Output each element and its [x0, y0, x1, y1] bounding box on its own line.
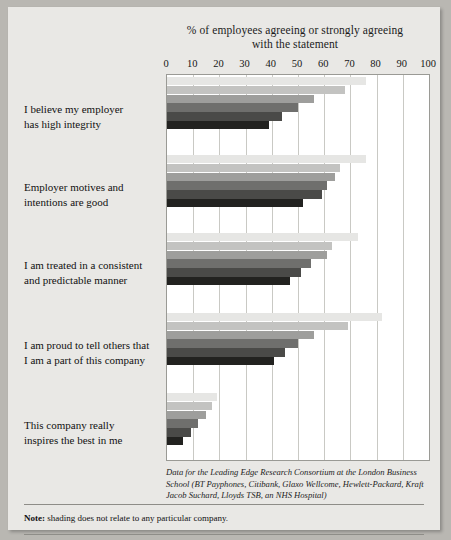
divider-bottom [24, 534, 424, 535]
bar-g5-s1 [167, 393, 217, 401]
chart-title: % of employees agreeing or strongly agre… [150, 23, 440, 51]
bar-g2-s1 [167, 155, 366, 163]
bar-group-2 [167, 155, 429, 208]
x-tick-0: 0 [163, 58, 168, 69]
bar-g3-s2 [167, 242, 332, 250]
bar-g2-s4 [167, 181, 327, 189]
bar-g5-s2 [167, 402, 212, 410]
bar-g1-s3 [167, 95, 314, 103]
bar-g3-s6 [167, 277, 290, 285]
bar-group-4 [167, 313, 429, 366]
bar-g1-s6 [167, 121, 269, 129]
bar-g5-s3 [167, 411, 206, 419]
x-tick-20: 20 [213, 58, 224, 69]
bar-g4-s4 [167, 339, 298, 347]
bar-g1-s4 [167, 103, 298, 111]
statement-5-line-2: inspires the best in me [24, 433, 156, 448]
x-tick-40: 40 [266, 58, 277, 69]
x-tick-100: 100 [420, 58, 436, 69]
bar-g2-s5 [167, 190, 322, 198]
x-tick-30: 30 [239, 58, 250, 69]
statement-3-line-1: I am treated in a consistent [24, 258, 156, 273]
bar-g2-s3 [167, 173, 335, 181]
divider-top [24, 504, 424, 505]
x-tick-70: 70 [344, 58, 355, 69]
x-tick-60: 60 [318, 58, 329, 69]
bar-g3-s4 [167, 259, 311, 267]
statement-1-line-2: has high integrity [24, 117, 156, 132]
plot-wrapper: 0102030405060708090100 [158, 58, 430, 463]
bar-g4-s1 [167, 313, 382, 321]
bar-group-1 [167, 77, 429, 130]
statement-label-2: Employer motives andintentions are good [24, 180, 156, 209]
bar-g3-s5 [167, 268, 301, 276]
bar-g4-s6 [167, 357, 274, 365]
statement-label-4: I am proud to tell others thatI am a par… [24, 338, 156, 367]
bar-g4-s5 [167, 348, 285, 356]
chart-title-line-1: % of employees agreeing or strongly agre… [150, 23, 440, 37]
statement-3-line-2: and predictable manner [24, 273, 156, 288]
statement-1-line-1: I believe my employer [24, 102, 156, 117]
bar-g5-s5 [167, 428, 191, 436]
statement-4-line-1: I am proud to tell others that [24, 338, 156, 353]
bar-g3-s1 [167, 233, 358, 241]
bottom-note-text: shading does not relate to any particula… [45, 513, 228, 523]
bar-g5-s6 [167, 437, 183, 445]
bar-g1-s1 [167, 77, 366, 85]
statement-2-line-1: Employer motives and [24, 180, 156, 195]
bar-g5-s4 [167, 419, 198, 427]
bar-g3-s3 [167, 251, 327, 259]
x-tick-10: 10 [187, 58, 198, 69]
bar-g2-s2 [167, 164, 340, 172]
bar-g1-s5 [167, 112, 282, 120]
bottom-note-prefix: Note: [24, 513, 45, 523]
statement-4-line-2: I am a part of this company [24, 353, 156, 368]
chart-page: % of employees agreeing or strongly agre… [0, 0, 451, 540]
bar-g1-s2 [167, 86, 345, 94]
statement-label-5: This company reallyinspires the best in … [24, 418, 156, 447]
plot-area [166, 74, 430, 461]
statement-label-3: I am treated in a consistentand predicta… [24, 258, 156, 287]
bottom-note: Note: shading does not relate to any par… [24, 512, 424, 524]
x-tick-80: 80 [370, 58, 381, 69]
x-tick-50: 50 [292, 58, 303, 69]
x-axis-tick-labels: 0102030405060708090100 [158, 58, 430, 73]
source-note: Data for the Leading Edge Research Conso… [166, 467, 434, 502]
bar-group-5 [167, 393, 429, 446]
chart-title-line-2: with the statement [150, 37, 440, 51]
bar-group-3 [167, 233, 429, 286]
chart-card: % of employees agreeing or strongly agre… [8, 7, 440, 530]
statement-label-1: I believe my employerhas high integrity [24, 102, 156, 131]
x-tick-90: 90 [397, 58, 408, 69]
bar-g4-s3 [167, 331, 314, 339]
bar-g2-s6 [167, 199, 303, 207]
statement-2-line-2: intentions are good [24, 195, 156, 210]
bar-g4-s2 [167, 322, 348, 330]
statement-5-line-1: This company really [24, 418, 156, 433]
